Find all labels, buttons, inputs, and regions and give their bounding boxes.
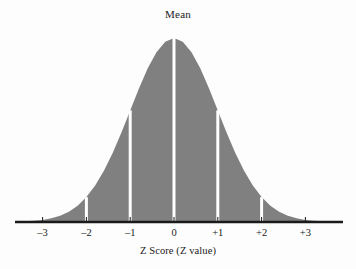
tick-label-0: –3 xyxy=(23,227,63,238)
x-axis-title: Z Score (Z value) xyxy=(0,245,356,256)
tick-label-3: 0 xyxy=(154,227,194,238)
tick-label-4: +1 xyxy=(198,227,238,238)
tick-label-5: +2 xyxy=(242,227,282,238)
tick-label-1: –2 xyxy=(66,227,106,238)
x-axis-tick-labels: –3–2–10+1+2+3 xyxy=(0,227,356,243)
tick-label-6: +3 xyxy=(285,227,325,238)
tick-label-2: –1 xyxy=(110,227,150,238)
normal-distribution-figure: Mean –3–2–10+1+2+3 Z Score (Z value) xyxy=(0,0,356,269)
